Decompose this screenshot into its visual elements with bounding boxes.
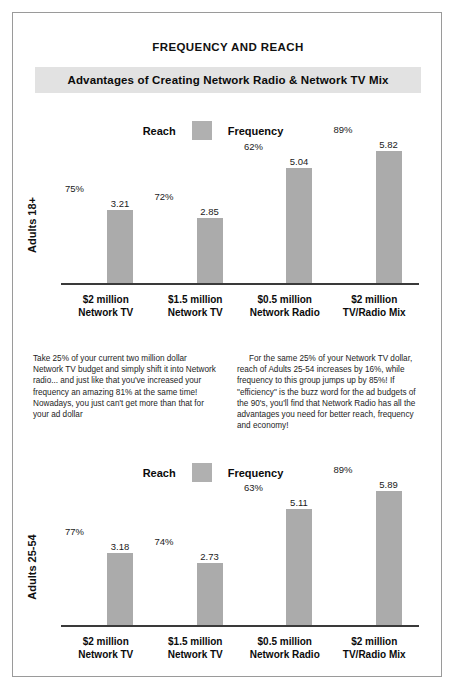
plot-area: 77%3.1874%2.7363%5.1189%5.89 bbox=[61, 475, 419, 625]
x-axis-category-label: $2 millionNetwork TV bbox=[61, 293, 151, 319]
frequency-value-label: 3.18 bbox=[97, 541, 143, 552]
frequency-value-label: 5.11 bbox=[276, 497, 322, 508]
plot-area: 75%3.2172%2.8562%5.0489%5.82 bbox=[61, 133, 419, 283]
frequency-value-label: 5.89 bbox=[366, 479, 412, 490]
reach-value-label: 89% bbox=[334, 464, 353, 475]
x-axis-category-label: $0.5 millionNetwork Radio bbox=[240, 293, 330, 319]
page-title: FREQUENCY AND REACH bbox=[13, 41, 443, 53]
frequency-bar-wrap: 5.82 bbox=[376, 151, 402, 283]
reach-value-label: 62% bbox=[244, 141, 263, 152]
frequency-bar bbox=[197, 218, 223, 283]
bar-group: 63%5.11 bbox=[240, 475, 330, 625]
x-axis-categories: $2 millionNetwork TV$1.5 millionNetwork … bbox=[61, 293, 419, 319]
chart-adults-25-54: Reach Frequency Adults 25-54 77%3.1874%2… bbox=[13, 453, 443, 688]
frequency-value-label: 5.82 bbox=[366, 139, 412, 150]
frequency-bar bbox=[107, 210, 133, 283]
bar-group: 89%5.82 bbox=[330, 133, 420, 283]
body-copy: Take 25% of your current two million dol… bbox=[13, 353, 443, 431]
x-axis-category-label: $2 millionNetwork TV bbox=[61, 635, 151, 661]
y-axis-label: Adults 25-54 bbox=[26, 512, 38, 622]
x-axis-category-label: $2 millionTV/Radio Mix bbox=[330, 635, 420, 661]
frequency-bar-wrap: 5.04 bbox=[286, 168, 312, 283]
frequency-bar bbox=[286, 509, 312, 625]
bar-groups: 77%3.1874%2.7363%5.1189%5.89 bbox=[61, 475, 419, 625]
chart-adults-18-plus: Reach Frequency Adults 18+ 75%3.2172%2.8… bbox=[13, 111, 443, 346]
frequency-bar bbox=[107, 553, 133, 625]
reach-value-label: 63% bbox=[244, 482, 263, 493]
subtitle-banner-text: Advantages of Creating Network Radio & N… bbox=[67, 74, 388, 86]
frequency-bar-wrap: 5.11 bbox=[286, 509, 312, 625]
frequency-bar-wrap: 5.89 bbox=[376, 491, 402, 625]
frequency-value-label: 2.73 bbox=[187, 551, 233, 562]
frequency-bar-wrap: 3.18 bbox=[107, 553, 133, 625]
frequency-bar bbox=[197, 563, 223, 625]
bar-group: 74%2.73 bbox=[151, 475, 241, 625]
frequency-bar bbox=[286, 168, 312, 283]
bar-group: 77%3.18 bbox=[61, 475, 151, 625]
bar-group: 75%3.21 bbox=[61, 133, 151, 283]
x-axis-category-label: $0.5 millionNetwork Radio bbox=[240, 635, 330, 661]
frequency-value-label: 3.21 bbox=[97, 198, 143, 209]
frequency-bar-wrap: 3.21 bbox=[107, 210, 133, 283]
x-axis-category-label: $1.5 millionNetwork TV bbox=[151, 635, 241, 661]
frequency-bar-wrap: 2.85 bbox=[197, 218, 223, 283]
bar-group: 72%2.85 bbox=[151, 133, 241, 283]
frequency-bar bbox=[376, 151, 402, 283]
frequency-bar-wrap: 2.73 bbox=[197, 563, 223, 625]
x-axis-categories: $2 millionNetwork TV$1.5 millionNetwork … bbox=[61, 635, 419, 661]
bar-groups: 75%3.2172%2.8562%5.0489%5.82 bbox=[61, 133, 419, 283]
y-axis-label: Adults 18+ bbox=[26, 170, 38, 280]
document-page: FREQUENCY AND REACH Advantages of Creati… bbox=[12, 12, 442, 677]
subtitle-banner: Advantages of Creating Network Radio & N… bbox=[35, 67, 421, 93]
paragraph-right: For the same 25% of your Network TV doll… bbox=[237, 353, 423, 431]
reach-value-label: 74% bbox=[155, 536, 174, 547]
x-axis-line bbox=[61, 625, 419, 627]
paragraph-left: Take 25% of your current two million dol… bbox=[33, 353, 219, 431]
frequency-bar bbox=[376, 491, 402, 625]
reach-value-label: 77% bbox=[65, 526, 84, 537]
reach-value-label: 89% bbox=[334, 124, 353, 135]
bar-group: 62%5.04 bbox=[240, 133, 330, 283]
frequency-value-label: 2.85 bbox=[187, 206, 233, 217]
frequency-value-label: 5.04 bbox=[276, 156, 322, 167]
x-axis-category-label: $1.5 millionNetwork TV bbox=[151, 293, 241, 319]
reach-value-label: 75% bbox=[65, 183, 84, 194]
bar-group: 89%5.89 bbox=[330, 475, 420, 625]
x-axis-category-label: $2 millionTV/Radio Mix bbox=[330, 293, 420, 319]
x-axis-line bbox=[61, 283, 419, 285]
reach-value-label: 72% bbox=[155, 191, 174, 202]
